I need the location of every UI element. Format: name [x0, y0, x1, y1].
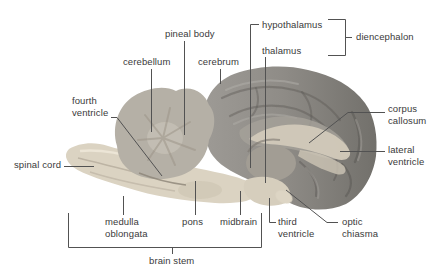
figure-caption-partial: b. Lateral view [71, 0, 132, 2]
label-spinal-cord: spinal cord [14, 159, 61, 171]
label-hypothalamus: hypothalamus [262, 19, 322, 31]
label-fourth-ventricle-line2: ventricle [72, 107, 108, 119]
label-brain-stem: brain stem [149, 255, 194, 267]
label-diencephalon: diencephalon [356, 31, 414, 43]
label-optic-chiasma: optic chiasma [342, 216, 378, 240]
label-lateral-ventricle: lateral ventricle [388, 144, 424, 168]
label-third-ventricle-line2: ventricle [278, 228, 314, 240]
label-thalamus: thalamus [262, 45, 301, 57]
label-medulla-oblongata: medulla oblongata [105, 216, 148, 240]
bracket-diencephalon [328, 20, 352, 56]
leader-corpus-callosum [309, 113, 385, 144]
label-corpus-callosum-line1: corpus [388, 103, 426, 115]
label-third-ventricle: third ventricle [278, 216, 314, 240]
label-lateral-ventricle-line1: lateral [388, 144, 424, 156]
label-fourth-ventricle-line1: fourth [72, 95, 108, 107]
label-fourth-ventricle: fourth ventricle [72, 95, 108, 119]
label-cerebrum: cerebrum [198, 56, 239, 68]
label-medulla-oblongata-line1: medulla [105, 216, 148, 228]
label-pineal-body: pineal body [165, 28, 215, 40]
label-midbrain: midbrain [220, 216, 257, 228]
label-optic-chiasma-line2: chiasma [342, 228, 378, 240]
leader-fourth-ventricle [111, 118, 162, 177]
figure-canvas: { "caption_partial": "b. Lateral view", … [0, 0, 436, 280]
leader-hypothalamus [251, 25, 260, 169]
label-cerebellum: cerebellum [123, 56, 170, 68]
label-medulla-oblongata-line2: oblongata [105, 228, 148, 240]
label-corpus-callosum-line2: callosum [388, 115, 426, 127]
label-lateral-ventricle-line2: ventricle [388, 156, 424, 168]
leader-third-ventricle [270, 198, 277, 223]
label-optic-chiasma-line1: optic [342, 216, 378, 228]
label-corpus-callosum: corpus callosum [388, 103, 426, 127]
label-pons: pons [182, 216, 203, 228]
label-third-ventricle-line1: third [278, 216, 314, 228]
